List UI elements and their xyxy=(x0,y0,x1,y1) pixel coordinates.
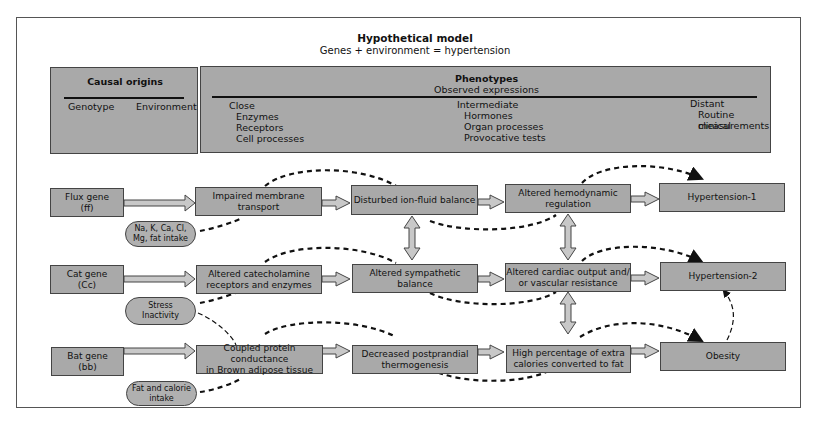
environment-pill-1: Na, K, Ca, Cl, Mg, fat intake xyxy=(125,221,196,247)
altered-cardiac-output-node: Altered cardiac output and/ or vascular … xyxy=(505,263,631,292)
altered-hemodynamic-node: Altered hemodynamic regulation xyxy=(505,184,631,213)
hypertension-1-node: Hypertension-1 xyxy=(659,183,785,212)
cat-gene-node: Cat gene (Cc) xyxy=(50,265,124,294)
dashed-link xyxy=(265,170,396,186)
block-arrow xyxy=(631,271,659,285)
dashed-link xyxy=(265,322,396,337)
bat-gene-node: Bat gene (bb) xyxy=(51,347,124,376)
dashed-link xyxy=(430,215,556,229)
coupled-protein-conductance-node: Coupled protein conductance in Brown adi… xyxy=(196,345,323,374)
dashed-link-thin xyxy=(724,291,733,340)
block-arrow xyxy=(631,344,659,358)
dashed-link xyxy=(265,248,396,263)
impaired-membrane-transport-node: Impaired membrane transport xyxy=(195,187,322,216)
flux-gene-node: Flux gene (ff) xyxy=(50,188,124,217)
dashed-link xyxy=(582,247,700,261)
disturbed-ion-fluid-node: Disturbed ion-fluid balance xyxy=(351,185,478,215)
dashed-link xyxy=(200,218,242,231)
double-arrow xyxy=(560,214,576,260)
altered-catecholamine-node: Altered catecholamine receptors and enzy… xyxy=(196,265,322,294)
block-arrow xyxy=(322,272,350,286)
dashed-link xyxy=(582,166,700,183)
block-arrow xyxy=(124,271,195,287)
block-arrow xyxy=(478,272,504,286)
block-arrow xyxy=(124,343,195,359)
dashed-link xyxy=(200,378,242,392)
double-arrow xyxy=(560,292,576,334)
dashed-link xyxy=(580,323,700,340)
block-arrow xyxy=(124,195,195,211)
block-arrow xyxy=(322,196,350,210)
altered-sympathetic-node: Altered sympathetic balance xyxy=(352,264,478,293)
block-arrow xyxy=(478,345,504,359)
environment-pill-3: Fat and calorie intake xyxy=(126,381,197,406)
block-arrow xyxy=(631,192,659,206)
block-arrow xyxy=(478,195,504,209)
block-arrow xyxy=(322,344,350,358)
dashed-link-thin xyxy=(198,313,236,345)
double-arrow xyxy=(404,216,420,260)
dashed-link xyxy=(430,292,556,304)
hypertension-2-node: Hypertension-2 xyxy=(660,262,786,291)
obesity-node: Obesity xyxy=(660,342,786,371)
high-percentage-fat-node: High percentage of extra calories conver… xyxy=(506,345,631,373)
environment-pill-2: Stress Inactivity xyxy=(125,297,196,325)
decreased-thermogenesis-node: Decreased postprandial thermogenesis xyxy=(352,345,478,374)
